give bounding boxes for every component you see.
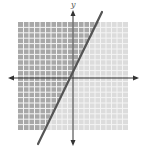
x-axis-right-arrow-icon bbox=[133, 76, 139, 81]
x-axis-left-arrow-icon bbox=[8, 76, 14, 81]
y-axis-down-arrow-icon bbox=[71, 140, 76, 146]
y-axis-label: y bbox=[71, 0, 76, 9]
coordinate-plane bbox=[0, 0, 143, 150]
y-axis-up-arrow-icon bbox=[71, 10, 76, 16]
